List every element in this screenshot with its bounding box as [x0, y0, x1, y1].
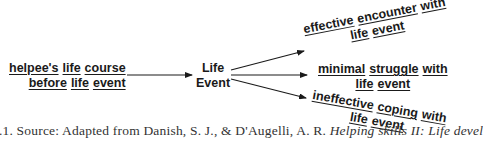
word: before [29, 76, 67, 90]
center-node: Life Event [196, 61, 230, 91]
word: event [93, 76, 126, 90]
center-line1: Life [196, 61, 230, 76]
arrow-to-ineffective [231, 79, 306, 98]
word: life [355, 77, 373, 91]
center-line2: Event [196, 76, 230, 91]
word: course [85, 61, 126, 75]
caption-title: Helping skills II: Life devel [330, 123, 483, 138]
word: minimal [318, 62, 365, 76]
word: event [377, 77, 410, 91]
outcome-minimal: minimalstrugglewith lifeevent [318, 62, 448, 92]
word: helpee's [9, 61, 59, 75]
word: with [423, 62, 448, 76]
word: life [63, 61, 81, 75]
word: life [71, 76, 89, 90]
arrow-to-effective [231, 51, 304, 70]
word: struggle [369, 62, 418, 76]
source-node: helpee'slifecourse beforelifeevent [9, 61, 126, 91]
caption-text: 4.1. Source: Adapted from Danish, S. J.,… [0, 123, 330, 138]
figure-caption: 4.1. Source: Adapted from Danish, S. J.,… [0, 123, 483, 139]
word: life [349, 25, 369, 42]
